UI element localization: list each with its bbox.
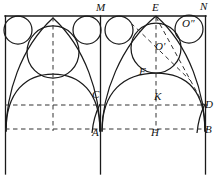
small-circle-1	[4, 16, 32, 44]
label-H: H	[151, 127, 159, 138]
label-K: K	[154, 91, 161, 102]
label-E: E	[152, 2, 159, 13]
low-arc-right-bay	[102, 73, 205, 131]
right-bay-arch-right-limb	[156, 16, 205, 132]
geometry-figure: M E N O' O″ F C K D A H B	[0, 0, 214, 176]
label-A: A	[92, 127, 99, 138]
label-N: N	[200, 1, 207, 12]
label-B: B	[205, 124, 212, 135]
dashed-diagonal-e-d	[156, 17, 206, 109]
small-circle-3	[105, 16, 133, 44]
label-F: F	[139, 66, 146, 77]
label-D: D	[205, 99, 213, 110]
small-circle-2	[73, 16, 101, 44]
label-C: C	[92, 89, 99, 100]
label-O-prime: O'	[155, 41, 165, 52]
label-O-double-prime: O″	[182, 18, 195, 29]
label-M: M	[96, 2, 105, 13]
